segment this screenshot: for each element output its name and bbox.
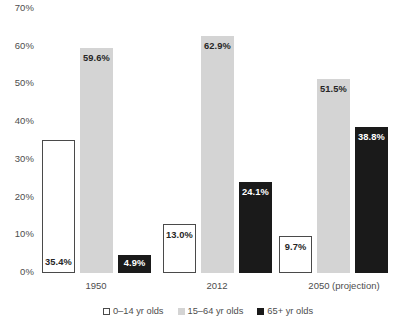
bar-chart: 70% 60% 50% 40% 30% 20% 10% 0% 35.4% 59.… [0, 0, 416, 323]
x-axis-tick-2050: 2050 (projection) [287, 280, 401, 291]
y-axis: 70% 60% 50% 40% 30% 20% 10% 0% [0, 0, 38, 280]
plot-area: 35.4% 59.6% 4.9% 13.0% 62.9% 24.1% 9.7% … [38, 0, 416, 280]
bar-value-label: 13.0% [164, 230, 195, 241]
bar-value-label: 62.9% [201, 41, 234, 52]
bar-working-1950[interactable]: 59.6% [80, 48, 113, 273]
legend-swatch-icon [103, 308, 110, 315]
bar-young-2012[interactable]: 13.0% [163, 224, 196, 273]
legend-label: 65+ yr olds [267, 306, 313, 316]
y-axis-tick: 30% [0, 154, 34, 164]
bar-value-label: 4.9% [118, 258, 151, 269]
y-axis-tick: 10% [0, 229, 34, 239]
legend: 0–14 yr olds 15–64 yr olds 65+ yr olds [0, 302, 416, 320]
legend-swatch-icon [178, 308, 185, 315]
x-axis-tick-2012: 2012 [177, 280, 257, 291]
x-axis-tick-1950: 1950 [56, 280, 136, 291]
x-axis: 1950 2012 2050 (projection) [38, 273, 416, 295]
legend-item-working[interactable]: 15–64 yr olds [178, 306, 244, 316]
bar-young-2050[interactable]: 9.7% [279, 236, 312, 273]
legend-swatch-icon [257, 308, 264, 315]
y-axis-tick: 60% [0, 41, 34, 51]
y-axis-tick: 20% [0, 192, 34, 202]
bar-value-label: 51.5% [317, 84, 350, 95]
bar-value-label: 9.7% [280, 242, 311, 253]
bar-senior-2050[interactable]: 38.8% [355, 127, 388, 273]
y-axis-tick: 0% [0, 267, 34, 277]
y-axis-tick: 40% [0, 116, 34, 126]
bar-working-2012[interactable]: 62.9% [201, 36, 234, 273]
bar-value-label: 59.6% [80, 53, 113, 64]
legend-label: 15–64 yr olds [188, 306, 244, 316]
bar-value-label: 35.4% [43, 257, 74, 268]
legend-item-young[interactable]: 0–14 yr olds [103, 306, 164, 316]
bar-working-2050[interactable]: 51.5% [317, 79, 350, 273]
bar-senior-1950[interactable]: 4.9% [118, 255, 151, 274]
bar-value-label: 38.8% [355, 132, 388, 143]
bar-value-label: 24.1% [239, 187, 272, 198]
y-axis-tick: 70% [0, 3, 34, 13]
bar-young-1950[interactable]: 35.4% [42, 140, 75, 274]
legend-item-senior[interactable]: 65+ yr olds [257, 306, 313, 316]
y-axis-tick: 50% [0, 78, 34, 88]
legend-label: 0–14 yr olds [113, 306, 164, 316]
bar-senior-2012[interactable]: 24.1% [239, 182, 272, 273]
